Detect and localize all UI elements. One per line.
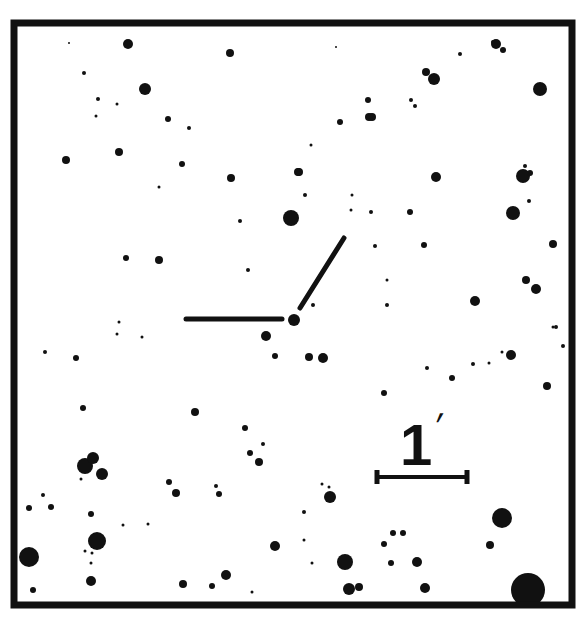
star xyxy=(422,68,430,76)
star xyxy=(295,168,303,176)
star xyxy=(43,350,47,354)
star xyxy=(216,491,222,497)
star xyxy=(270,541,280,551)
star xyxy=(381,390,387,396)
star xyxy=(302,510,306,514)
star xyxy=(561,344,565,348)
star xyxy=(261,442,265,446)
star xyxy=(242,425,248,431)
star xyxy=(492,508,512,528)
star xyxy=(409,98,413,102)
star xyxy=(283,210,299,226)
star xyxy=(458,52,462,56)
star xyxy=(321,483,324,486)
star xyxy=(123,39,133,49)
star xyxy=(30,587,36,593)
star xyxy=(488,362,491,365)
star xyxy=(369,210,373,214)
star xyxy=(86,576,96,586)
star xyxy=(209,583,215,589)
star xyxy=(523,164,527,168)
star xyxy=(311,303,315,307)
star xyxy=(522,276,530,284)
star xyxy=(73,355,79,361)
star xyxy=(337,554,353,570)
star xyxy=(413,104,417,108)
star xyxy=(388,560,394,566)
star xyxy=(91,552,94,555)
star xyxy=(470,296,480,306)
star xyxy=(122,524,125,527)
star xyxy=(368,113,376,121)
star xyxy=(141,336,144,339)
star xyxy=(261,331,271,341)
star xyxy=(172,489,180,497)
star xyxy=(501,351,504,354)
star xyxy=(221,570,231,580)
star xyxy=(26,505,32,511)
star xyxy=(491,40,495,44)
star xyxy=(310,144,313,147)
star xyxy=(19,547,39,567)
star xyxy=(531,284,541,294)
star xyxy=(337,119,343,125)
scale-label: 1 xyxy=(400,416,432,474)
star xyxy=(552,326,555,329)
star xyxy=(96,97,100,101)
star xyxy=(449,375,455,381)
star xyxy=(82,71,86,75)
star xyxy=(96,468,108,480)
star xyxy=(351,194,354,197)
star xyxy=(139,83,151,95)
star xyxy=(115,148,123,156)
star xyxy=(226,49,234,57)
star xyxy=(41,493,45,497)
star xyxy=(116,103,119,106)
star xyxy=(373,244,377,248)
star xyxy=(431,172,441,182)
star xyxy=(84,550,87,553)
star xyxy=(238,219,242,223)
star xyxy=(421,242,427,248)
star xyxy=(412,557,422,567)
star xyxy=(506,206,520,220)
star xyxy=(311,562,314,565)
star xyxy=(227,174,235,182)
star xyxy=(255,458,263,466)
star xyxy=(385,303,389,307)
star xyxy=(471,362,475,366)
star xyxy=(179,161,185,167)
star xyxy=(251,591,254,594)
star xyxy=(165,116,171,122)
star xyxy=(355,583,363,591)
star xyxy=(303,539,306,542)
star xyxy=(123,255,129,261)
star xyxy=(425,366,429,370)
star xyxy=(318,353,328,363)
star xyxy=(381,541,387,547)
star xyxy=(420,583,430,593)
star xyxy=(305,353,313,361)
star xyxy=(506,350,516,360)
star xyxy=(187,126,191,130)
star xyxy=(390,530,396,536)
chart-frame xyxy=(14,23,572,605)
target-pointer-diagonal xyxy=(300,238,344,308)
star xyxy=(166,479,172,485)
star xyxy=(155,256,163,264)
star xyxy=(88,532,106,550)
star xyxy=(147,523,150,526)
target-marker xyxy=(186,238,344,326)
star xyxy=(179,580,187,588)
star xyxy=(350,209,353,212)
star xyxy=(246,268,250,272)
star xyxy=(118,321,121,324)
star xyxy=(428,73,440,85)
star xyxy=(158,186,161,189)
star xyxy=(328,486,331,489)
star xyxy=(80,478,83,481)
star xyxy=(407,209,413,215)
star xyxy=(116,333,119,336)
star xyxy=(87,452,99,464)
star xyxy=(554,325,558,329)
